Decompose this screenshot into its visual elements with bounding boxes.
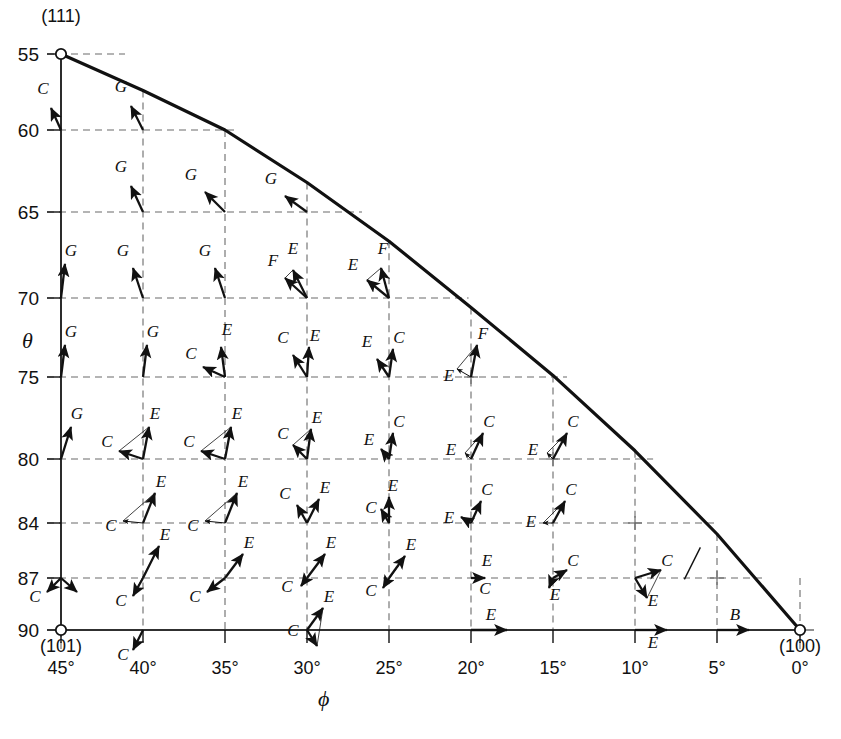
y-tick-label-90: 90 [18, 620, 39, 641]
vector-label-E: E [309, 326, 321, 345]
vector-label-E: E [443, 366, 455, 385]
vector-label-C: C [277, 424, 289, 443]
pole-label-100: (100) [779, 636, 821, 656]
x-tick-label-25: 25° [375, 658, 402, 678]
vector-label-C: C [185, 344, 197, 363]
pole-label-111: (111) [41, 6, 80, 26]
vector-label-E: E [237, 472, 249, 491]
vector-label-C: C [365, 498, 377, 517]
vector-label-C: C [105, 516, 117, 535]
vector-label-G: G [265, 169, 277, 188]
vector-label-C: C [279, 484, 291, 503]
vector-label-E: E [481, 551, 493, 570]
vector-label-C: C [661, 551, 673, 570]
vector-label-E: E [155, 472, 167, 491]
vector-label-E: E [647, 633, 659, 652]
vector-label-C: C [277, 328, 289, 347]
x-tick-label-30: 30° [293, 658, 320, 678]
vector-label-G: G [115, 157, 127, 176]
vector-label-E: E [159, 525, 171, 544]
vector-label-G: G [185, 165, 197, 184]
vector-label-E: E [287, 239, 299, 258]
vector-label-C: C [187, 516, 199, 535]
vector-label-C: C [189, 587, 201, 606]
vector-label-C: C [101, 432, 113, 451]
vector-label-C: C [483, 412, 495, 431]
vector-label-C: C [481, 480, 493, 499]
vector-label-E: E [443, 508, 455, 527]
vector-label-C: C [567, 551, 579, 570]
x-tick-label-35: 35° [211, 658, 238, 678]
theta-phi-vector-chart: CGGGGGGGEFFEGGECECCEFEGECECECCECECEECECE… [0, 0, 841, 739]
vector-label-G: G [65, 322, 77, 341]
x-tick-label-10: 10° [621, 658, 648, 678]
vector-label-C: C [287, 621, 299, 640]
pole-marker-101 [56, 625, 66, 635]
vector-label-E: E [445, 440, 457, 459]
vector-label-C: C [479, 579, 491, 598]
y-tick-label-55: 55 [18, 44, 39, 65]
vector-label-C: C [29, 587, 41, 606]
vector-label-E: E [361, 332, 373, 351]
vector-label-C: C [183, 432, 195, 451]
vector-label-E: E [527, 440, 539, 459]
vector-label-G: G [199, 241, 211, 260]
y-tick-label-70: 70 [18, 288, 39, 309]
vector-label-E: E [405, 535, 417, 554]
vector-label-F: F [267, 251, 279, 270]
vector-label-E: E [323, 587, 335, 606]
vector-label-E: E [525, 512, 537, 531]
vector-label-E: E [243, 533, 255, 552]
y-axis-label: θ [22, 328, 33, 353]
figure-background [0, 0, 841, 739]
vector-label-E: E [149, 404, 161, 423]
pole-label-101: (101) [40, 636, 82, 656]
vector-label-E: E [387, 476, 399, 495]
vector-label-E: E [319, 478, 331, 497]
y-tick-label-60: 60 [18, 120, 39, 141]
x-axis-label: ϕ [318, 686, 329, 711]
pole-marker-100 [795, 625, 805, 635]
vector-label-C: C [281, 577, 293, 596]
y-tick-label-84: 84 [18, 513, 40, 534]
vector-label-G: G [71, 404, 83, 423]
vector-label-E: E [221, 320, 233, 339]
x-tick-label-15: 15° [539, 658, 566, 678]
x-tick-label-20: 20° [457, 658, 484, 678]
y-tick-label-87: 87 [18, 568, 39, 589]
vector-label-B: B [730, 605, 741, 624]
vector-label-C: C [393, 412, 405, 431]
vector-label-E: E [363, 430, 375, 449]
vector-label-C: C [567, 412, 579, 431]
vector-label-F: F [377, 239, 389, 258]
y-tick-label-65: 65 [18, 202, 39, 223]
vector-label-G: G [147, 322, 159, 341]
vector-label-F: F [477, 324, 489, 343]
vector-label-C: C [365, 581, 377, 600]
x-tick-label-40: 40° [129, 658, 156, 678]
y-tick-label-80: 80 [18, 449, 39, 470]
x-tick-label-5: 5° [708, 658, 725, 678]
vector-label-C: C [37, 79, 49, 98]
vector-label-E: E [347, 255, 359, 274]
x-tick-label-0: 0° [791, 658, 808, 678]
vector-label-G: G [117, 241, 129, 260]
vector-label-C: C [117, 645, 129, 664]
vector-label-E: E [647, 591, 659, 610]
vector-label-E: E [485, 605, 497, 624]
vector-label-E: E [549, 585, 561, 604]
vector-label-E: E [231, 404, 243, 423]
vector-arrow: C [479, 579, 491, 598]
vector-label-G: G [65, 241, 77, 260]
y-tick-label-75: 75 [18, 367, 39, 388]
vector-label-E: E [311, 408, 323, 427]
pole-marker-111 [56, 49, 66, 59]
vector-label-E: E [325, 533, 337, 552]
vector-label-C: C [115, 591, 127, 610]
vector-label-C: C [565, 480, 577, 499]
x-tick-label-45: 45° [47, 658, 74, 678]
vector-label-C: C [393, 328, 405, 347]
vector-label-G: G [115, 77, 127, 96]
